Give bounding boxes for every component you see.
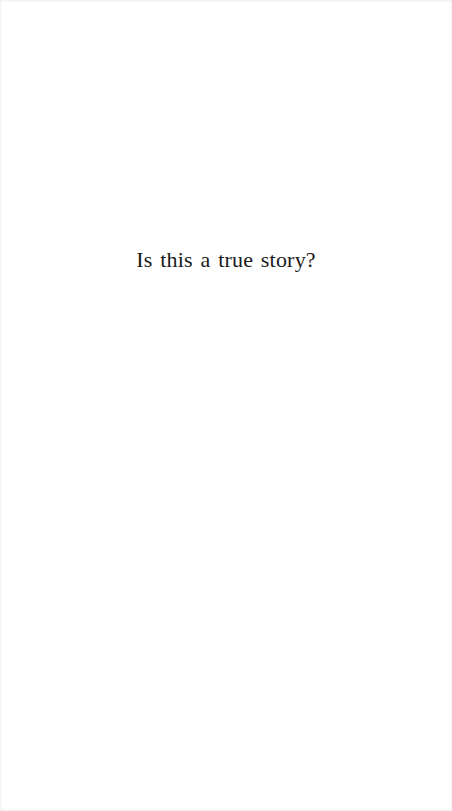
book-page: Is this a true story?: [0, 0, 452, 811]
page-text: Is this a true story?: [0, 246, 452, 274]
